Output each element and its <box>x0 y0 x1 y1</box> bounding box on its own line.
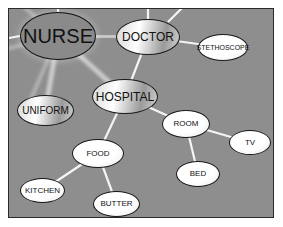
node-uniform: UNIFORM <box>17 95 74 126</box>
edge-stub <box>9 36 20 38</box>
node-bed: BED <box>176 161 220 187</box>
node-label: UNIFORM <box>22 106 69 116</box>
node-label: TV <box>245 139 255 147</box>
node-label: ROOM <box>174 120 199 128</box>
node-label: BUTTER <box>101 200 133 208</box>
node-food: FOOD <box>72 139 124 168</box>
node-tv: TV <box>229 130 271 155</box>
node-label: DOCTOR <box>122 31 174 43</box>
node-label: BED <box>190 170 206 178</box>
node-doctor: DOCTOR <box>116 19 180 55</box>
node-label: KITCHEN <box>25 187 60 195</box>
node-label: HOSPITAL <box>96 91 154 103</box>
node-label: FOOD <box>86 150 109 158</box>
node-hospital: HOSPITAL <box>92 79 158 114</box>
node-kitchen: KITCHEN <box>20 178 65 203</box>
node-nurse: NURSE <box>20 12 96 60</box>
node-butter: BUTTER <box>93 191 140 217</box>
node-room: ROOM <box>162 110 210 138</box>
node-stethoscope: STETHOSCOPE <box>198 34 248 61</box>
edge-stub <box>168 8 182 22</box>
node-label: NURSE <box>23 26 93 46</box>
node-label: STETHOSCOPE <box>197 44 250 51</box>
